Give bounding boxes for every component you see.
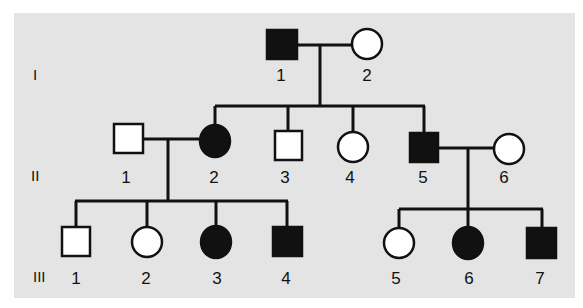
individual-II-6-female (494, 134, 524, 164)
individual-II-4-female (338, 132, 368, 162)
generation-label-I: I (33, 66, 37, 83)
individual-III-4-affected-male (273, 227, 302, 256)
label-I-2: 2 (362, 66, 371, 85)
individual-III-2-female (132, 227, 162, 257)
label-III-5: 5 (391, 269, 400, 288)
individual-II-5-affected-male (410, 133, 438, 162)
label-II-5: 5 (418, 168, 427, 187)
individual-II-3-male (275, 131, 302, 160)
label-III-6: 6 (464, 269, 473, 288)
label-II-1: 1 (121, 168, 130, 187)
label-II-2: 2 (209, 168, 218, 187)
individual-III-7-affected-male (527, 228, 556, 258)
pedigree-chart: I II III 1 2 1 2 3 4 5 6 1 2 3 4 5 6 7 (0, 0, 583, 308)
individual-III-1-male (62, 227, 90, 256)
individual-III-6-affected-female (453, 227, 483, 259)
label-III-1: 1 (71, 269, 80, 288)
label-III-3: 3 (212, 269, 221, 288)
individual-III-5-female (384, 228, 414, 258)
label-III-2: 2 (141, 269, 150, 288)
individual-I-2-female (352, 29, 382, 59)
label-II-6: 6 (499, 168, 508, 187)
generation-label-III: III (33, 268, 46, 285)
label-II-3: 3 (280, 168, 289, 187)
generation-labels: I II III (31, 66, 46, 285)
label-II-4: 4 (345, 168, 354, 187)
generation-label-II: II (31, 167, 39, 184)
label-I-1: 1 (276, 66, 285, 85)
label-III-7: 7 (535, 269, 544, 288)
individual-I-1-affected-male (267, 30, 297, 59)
connecting-lines (75, 45, 543, 228)
label-III-4: 4 (281, 269, 290, 288)
individual-III-3-affected-female (201, 226, 231, 258)
individuals (62, 29, 556, 259)
individual-II-1-male (114, 124, 143, 153)
individual-II-2-affected-female (200, 125, 230, 157)
